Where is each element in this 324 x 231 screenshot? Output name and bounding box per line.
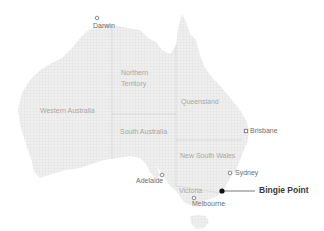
poi-label-bingie-point: Bingie Point xyxy=(259,186,309,195)
city-label-melbourne: Melbourne xyxy=(192,200,225,207)
city-label-darwin: Darwin xyxy=(93,22,115,29)
state-label-territory: Territory xyxy=(121,80,146,87)
state-label-victoria: Victoria xyxy=(179,187,202,194)
city-label-sydney: Sydney xyxy=(235,169,258,176)
sydney-marker-icon xyxy=(228,171,232,175)
darwin-marker-icon xyxy=(95,16,99,20)
city-label-brisbane: Brisbane xyxy=(250,127,278,134)
state-label-queensland: Queensland xyxy=(181,98,219,105)
brisbane-marker-icon xyxy=(244,129,247,132)
australia-map xyxy=(0,0,324,231)
state-label-western-australia: Western Australia xyxy=(40,107,95,114)
tasmania-shape xyxy=(190,215,209,229)
bingie-point-dot-icon xyxy=(219,188,224,193)
city-label-adelaide: Adelaide xyxy=(136,177,163,184)
state-label-northern: Northern xyxy=(121,69,148,76)
state-label-south-australia: South Australia xyxy=(120,128,167,135)
state-label-new-south-wales: New South Wales xyxy=(180,152,235,159)
